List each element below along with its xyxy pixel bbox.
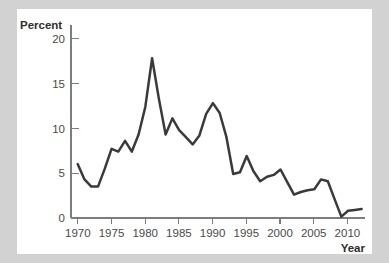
x-tick-label-1970: 1970 — [65, 227, 91, 239]
y-axis-ticks — [71, 39, 79, 218]
x-tick-label-1995: 1995 — [234, 227, 260, 239]
y-axis-tick-labels: 20 15 10 5 0 — [52, 33, 65, 224]
y-tick-label-20: 20 — [52, 33, 65, 45]
x-tick-label-2010: 2010 — [335, 227, 361, 239]
y-tick-label-5: 5 — [59, 167, 65, 179]
y-tick-label-0: 0 — [59, 212, 65, 224]
x-tick-label-1980: 1980 — [132, 227, 158, 239]
line-chart: 20 15 10 5 0 1970 1975 1980 1985 1990 19… — [17, 9, 372, 254]
x-axis-tick-labels: 1970 1975 1980 1985 1990 1995 2000 2005 … — [65, 227, 360, 239]
x-tick-label-1990: 1990 — [200, 227, 226, 239]
data-series-line — [78, 58, 362, 216]
x-tick-label-1975: 1975 — [99, 227, 125, 239]
x-axis-ticks — [78, 218, 348, 224]
x-axis-title: Year — [341, 242, 366, 254]
figure-card: 20 15 10 5 0 1970 1975 1980 1985 1990 19… — [17, 9, 372, 254]
y-tick-label-15: 15 — [52, 78, 65, 90]
y-tick-label-10: 10 — [52, 123, 65, 135]
y-axis-title: Percent — [20, 19, 62, 31]
x-tick-label-1985: 1985 — [166, 227, 192, 239]
x-tick-label-2000: 2000 — [267, 227, 293, 239]
x-tick-label-2005: 2005 — [301, 227, 327, 239]
chart-axes — [71, 25, 365, 218]
